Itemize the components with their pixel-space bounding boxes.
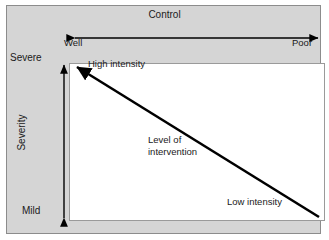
- level-of-intervention-label: Level of intervention: [148, 134, 197, 158]
- high-intensity-annotation: High intensity: [88, 58, 145, 69]
- severity-axis-title: Severity: [16, 98, 27, 168]
- figure-canvas: Control Well Poor Severe Mild Severity H…: [0, 0, 329, 240]
- level-of-intervention-line1: Level of: [148, 134, 197, 146]
- low-intensity-annotation: Low intensity: [227, 196, 282, 207]
- control-axis-title: Control: [0, 9, 329, 20]
- severity-axis-top-label: Severe: [10, 52, 42, 63]
- control-axis-left-label: Well: [64, 37, 82, 48]
- control-axis-right-label: Poor: [292, 37, 312, 48]
- severity-axis-bottom-label: Mild: [22, 205, 40, 216]
- level-of-intervention-line2: intervention: [148, 146, 197, 158]
